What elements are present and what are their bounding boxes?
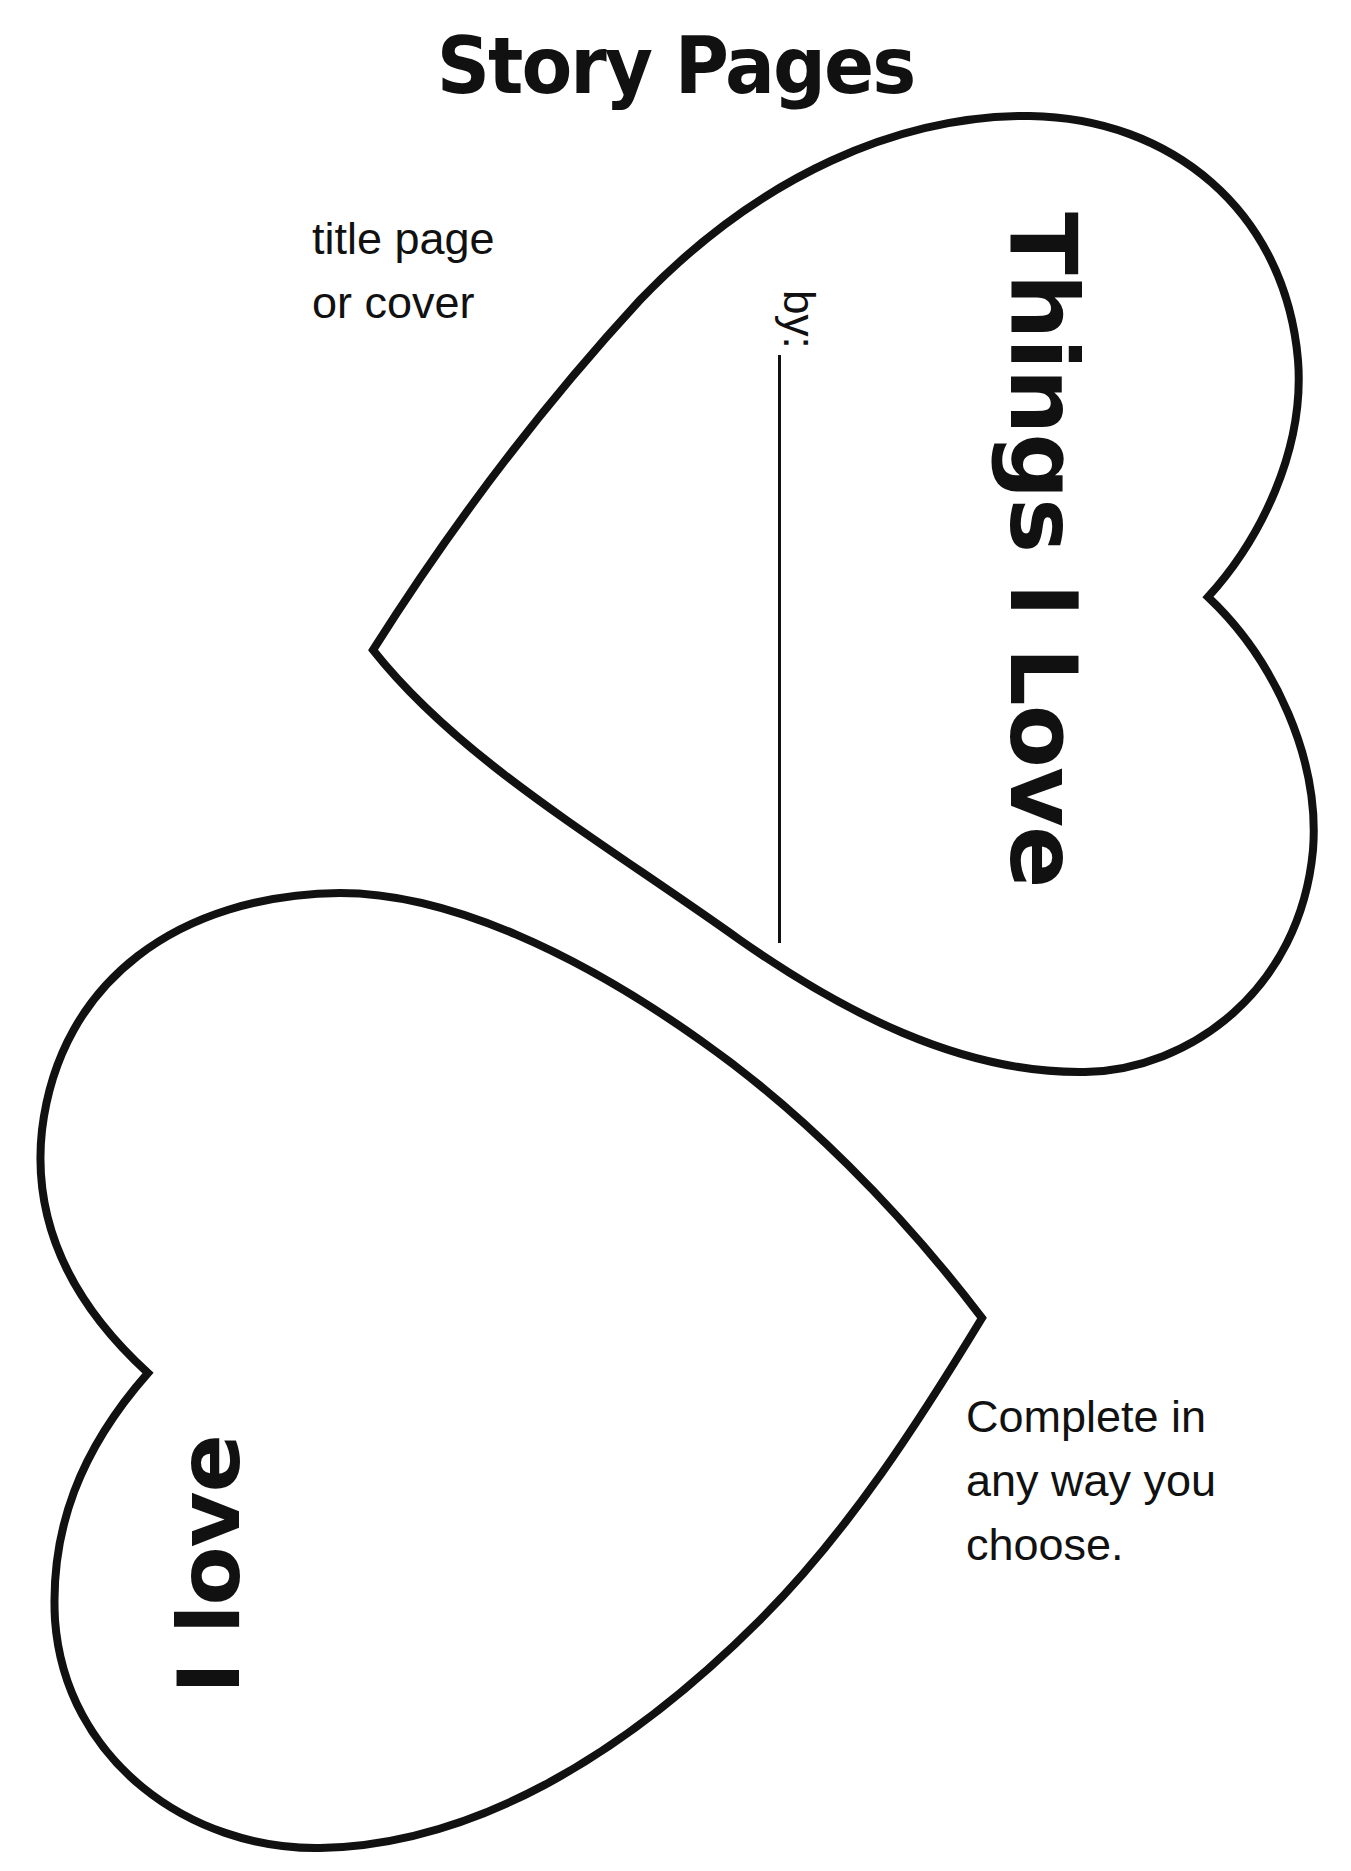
byline-label: by: — [776, 290, 822, 349]
page-instruction-note: Complete in any way you choose. — [966, 1385, 1216, 1577]
cover-note-line-2: or cover — [312, 271, 495, 335]
page-note-line-1: Complete in — [966, 1385, 1216, 1449]
cover-instruction-note: title page or cover — [312, 207, 495, 335]
cover-heart-outline — [373, 116, 1314, 1072]
byline-blank-field[interactable] — [778, 355, 781, 943]
page-heart-outline — [40, 893, 982, 1848]
page-heart-text: I love — [168, 1435, 250, 1694]
page-note-line-3: choose. — [966, 1513, 1216, 1577]
cover-title-text: Things I Love — [992, 212, 1092, 887]
page-note-line-2: any way you — [966, 1449, 1216, 1513]
cover-note-line-1: title page — [312, 207, 495, 271]
